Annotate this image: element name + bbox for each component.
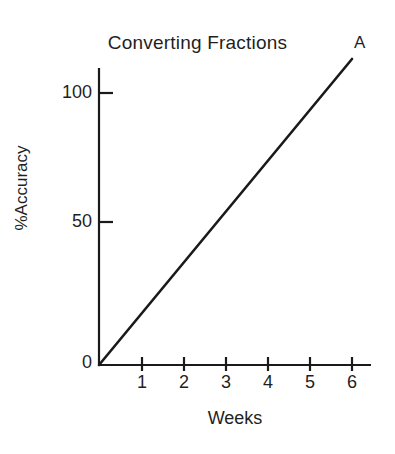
data-line-series-a [99, 59, 352, 365]
chart-figure: Converting Fractions %Accuracy Weeks 100… [0, 0, 395, 454]
plot-area [0, 0, 395, 454]
